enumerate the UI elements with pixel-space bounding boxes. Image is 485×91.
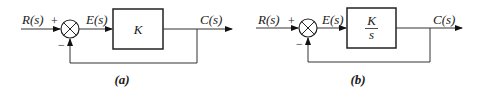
plus-sign-a: + xyxy=(51,14,58,28)
error-label-a: E(s) xyxy=(85,12,108,27)
block-gain-a: K xyxy=(133,22,144,37)
summing-junction-b xyxy=(299,19,317,37)
block-denominator-b: s xyxy=(369,27,374,42)
input-label-b: R(s) xyxy=(257,12,280,27)
error-label-b: E(s) xyxy=(321,12,344,27)
block-numerator-b: K xyxy=(366,13,377,28)
summing-junction-a xyxy=(61,20,79,38)
caption-b: (b) xyxy=(350,72,365,87)
block-diagrams-canvas: R(s) + E(s) K C(s) − (a) R(s) + E(s) K xyxy=(0,0,485,91)
output-label-b: C(s) xyxy=(433,12,455,27)
minus-sign-b: − xyxy=(296,37,303,51)
output-label-a: C(s) xyxy=(200,12,222,27)
caption-a: (a) xyxy=(114,72,129,87)
diagram-a: R(s) + E(s) K C(s) − (a) xyxy=(21,9,232,87)
minus-sign-a: − xyxy=(58,38,65,52)
input-label-a: R(s) xyxy=(21,12,44,27)
plus-sign-b: + xyxy=(288,14,295,28)
diagram-b: R(s) + E(s) K s C(s) − (b) xyxy=(256,8,462,87)
